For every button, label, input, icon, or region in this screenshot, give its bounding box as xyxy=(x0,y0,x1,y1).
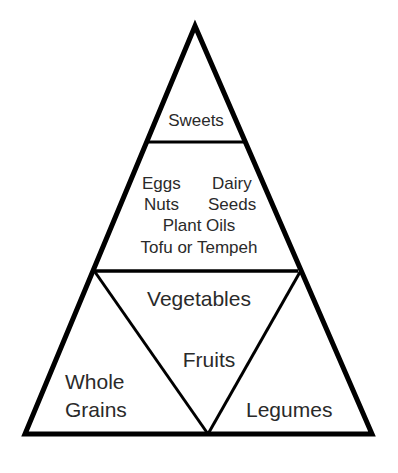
nuts-label: Nuts xyxy=(144,195,179,215)
vegetables-label: Vegetables xyxy=(147,287,251,311)
grains-label: Grains xyxy=(65,396,127,424)
eggs-label: Eggs xyxy=(142,174,181,194)
dairy-label: Dairy xyxy=(212,174,252,194)
plant-oils-label: Plant Oils xyxy=(163,216,236,236)
pyramid-diagram xyxy=(0,0,398,473)
whole-grains-label: Whole Grains xyxy=(65,368,127,424)
fruits-label: Fruits xyxy=(183,348,236,372)
seeds-label: Seeds xyxy=(208,195,256,215)
tofu-tempeh-label: Tofu or Tempeh xyxy=(141,238,258,258)
whole-label: Whole xyxy=(65,368,127,396)
sweets-label: Sweets xyxy=(168,111,224,131)
legumes-label: Legumes xyxy=(246,398,332,422)
